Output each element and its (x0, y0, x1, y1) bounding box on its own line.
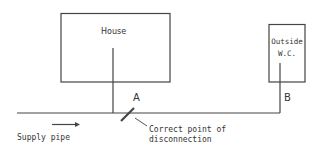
callout-line-2: disconnection (149, 135, 212, 144)
plumbing-diagram: House Outside W.C. A B Supply pipe Corre… (0, 0, 319, 154)
outside-wc-label-1: Outside (271, 37, 303, 46)
house-label: House (101, 27, 126, 36)
disconnection-mark (121, 108, 134, 121)
supply-pipe-label: Supply pipe (17, 133, 70, 142)
flow-arrow-icon (75, 122, 80, 127)
point-a-label: A (133, 92, 140, 103)
callout-leader (135, 118, 147, 126)
house-box (61, 14, 170, 83)
callout-line-1: Correct point of (149, 125, 226, 134)
outside-wc-label-2: W.C. (278, 49, 296, 58)
point-b-label: B (284, 92, 291, 103)
